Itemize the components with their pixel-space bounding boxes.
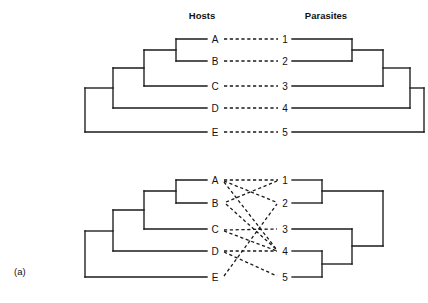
assoc-E-2-lower: [224, 204, 277, 276]
parasite-tip-label-2-lower: 2: [282, 198, 288, 209]
parasite-tip-label-5: 5: [282, 127, 288, 138]
upper-association-links: [224, 39, 278, 132]
host-tip-label-C: C: [211, 81, 218, 92]
upper-parasite-tree: [292, 39, 424, 132]
assoc-D-5-lower: [224, 252, 277, 276]
lower-association-links: [224, 180, 278, 276]
assoc-B-4-lower: [226, 204, 277, 250]
parasites-column-header: Parasites: [305, 10, 347, 21]
host-tip-label-B: B: [212, 56, 219, 67]
parasite-tip-label-4: 4: [282, 103, 288, 114]
panel-label-a: (a): [14, 266, 26, 277]
hosts-column-header: Hosts: [189, 10, 215, 21]
upper-host-tree: [85, 39, 207, 132]
parasite-tip-label-5-lower: 5: [282, 272, 288, 283]
host-tip-label-D: D: [211, 103, 218, 114]
host-tip-label-C-lower: C: [211, 224, 218, 235]
assoc-C-3-lower: [224, 229, 277, 230]
parasite-tip-label-3-lower: 3: [282, 224, 288, 235]
host-tip-label-A-lower: A: [212, 175, 219, 186]
assoc-C-4-lower: [224, 231, 277, 251]
parasite-tip-label-3: 3: [282, 81, 288, 92]
host-tip-label-B-lower: B: [212, 198, 219, 209]
parasite-tip-label-2: 2: [282, 56, 288, 67]
host-tip-label-E: E: [212, 127, 219, 138]
host-tip-label-E-lower: E: [212, 272, 219, 283]
host-tip-label-D-lower: D: [211, 246, 218, 257]
lower-panel: A B C D E 1 2 3 4 5: [85, 175, 383, 283]
lower-host-tree: [85, 180, 207, 277]
host-tip-label-A: A: [212, 34, 219, 45]
figure-canvas: Hosts Parasites A: [0, 0, 428, 303]
parasite-tip-label-1: 1: [282, 34, 288, 45]
upper-panel: A B C D E 1 2 3 4 5: [85, 34, 424, 138]
parasite-tip-label-4-lower: 4: [282, 246, 288, 257]
tanglegram-figure: Hosts Parasites A: [0, 0, 428, 303]
parasite-tip-label-1-lower: 1: [282, 175, 288, 186]
lower-parasite-tree: [292, 180, 383, 277]
